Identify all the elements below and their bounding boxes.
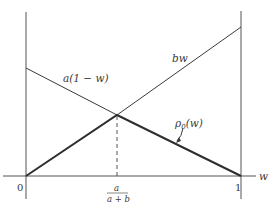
tick-label-one: 1 bbox=[235, 182, 241, 193]
fraction-denominator: a + b bbox=[107, 194, 130, 204]
diagram-svg: a(1 − w) bw ρ0(w) 0 1 w a a + b bbox=[0, 0, 279, 218]
diagram-canvas: a(1 − w) bw ρ0(w) 0 1 w a a + b bbox=[0, 0, 279, 218]
label-bw: bw bbox=[172, 52, 188, 64]
fraction-numerator: a bbox=[114, 183, 119, 193]
label-rho0: ρ0(w) bbox=[174, 117, 203, 131]
arrowhead-icon bbox=[176, 137, 181, 143]
origin-label: 0 bbox=[17, 182, 23, 193]
label-a-one-minus-w: a(1 − w) bbox=[63, 72, 109, 84]
x-axis-label: w bbox=[259, 170, 268, 182]
line-bw bbox=[117, 27, 241, 115]
line-rho0-envelope bbox=[26, 115, 241, 176]
